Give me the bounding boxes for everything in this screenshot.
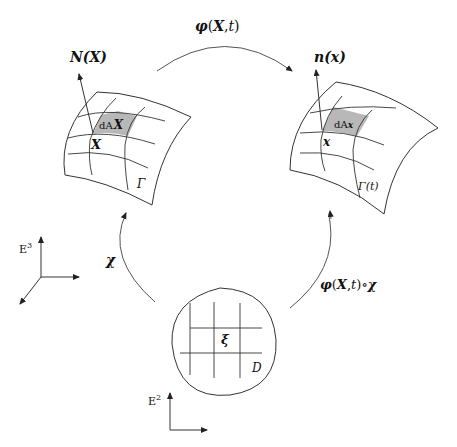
phi-map-label: φ(X,t) — [195, 18, 240, 34]
e2-axes — [170, 393, 207, 430]
chi-map-label: χ — [105, 252, 116, 268]
phi-map-arrow — [157, 47, 292, 72]
normal-cur-label: n(x) — [314, 49, 346, 65]
param-point-label: ξ — [221, 332, 230, 347]
point-cur-label: x — [322, 135, 331, 149]
point-ref-label: X — [90, 137, 102, 152]
chi-map-arrow — [120, 213, 155, 302]
composite-map-label: φ(X,t)∘χ — [320, 277, 378, 292]
diagram-canvas: φ(X,t) N(X) dAX X Γ n(x) dAx x Γ(t) χ — [0, 0, 457, 447]
space2-label: E2 — [148, 393, 161, 408]
composite-map-arrow — [290, 211, 331, 308]
dA-ref-label: dAX — [99, 118, 124, 132]
normal-ref-label: N(X) — [69, 49, 107, 65]
surface-ref-label: Γ — [136, 177, 146, 191]
dA-cur-label: dAx — [334, 119, 354, 130]
space3-label: E3 — [19, 241, 32, 256]
reference-surface — [64, 74, 191, 205]
param-domain-label: D — [251, 361, 262, 375]
surface-cur-label: Γ(t) — [357, 180, 379, 193]
